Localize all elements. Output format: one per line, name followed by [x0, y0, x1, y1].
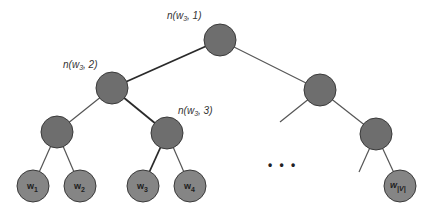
ellipsis: • • •: [268, 158, 297, 172]
root-node: [204, 24, 236, 56]
edge-root-to-right: [220, 40, 320, 90]
edge-root-to-n2: [112, 40, 220, 88]
hierarchical-softmax-tree: w1 w2 w3 w4 w|V| n(w3, 1) n(w3, 2) n(w3,…: [0, 0, 429, 209]
node-level3-lr: [151, 117, 183, 149]
node-level2-left: [96, 72, 128, 104]
inner-nodes: [41, 24, 392, 150]
node-level2-right: [304, 74, 336, 106]
node-level3-ll: [41, 116, 73, 148]
path-label-level2: n(w3, 2): [63, 59, 98, 71]
path-label-level3: n(w3, 3): [178, 105, 213, 117]
tree-canvas: w1 w2 w3 w4 w|V| n(w3, 1) n(w3, 2) n(w3,…: [0, 0, 429, 209]
path-label-root: n(w3, 1): [167, 10, 202, 22]
node-level3-r: [360, 118, 392, 150]
